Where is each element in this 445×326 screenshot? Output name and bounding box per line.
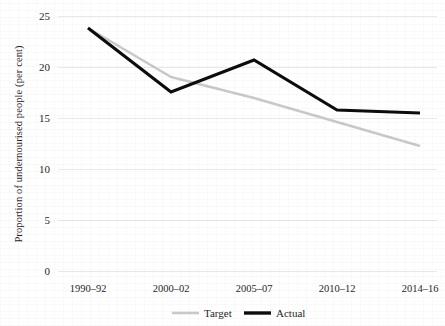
legend-label-target: Target xyxy=(204,307,232,319)
y-tick-label-20: 20 xyxy=(39,61,51,73)
legend-label-actual: Actual xyxy=(276,307,305,319)
y-tick-label-10: 10 xyxy=(39,163,51,175)
line-chart-canvas: 25 20 15 10 5 0 Proportion of undernouri… xyxy=(0,0,445,326)
y-axis-title: Proportion of undernourised people (per … xyxy=(13,45,25,243)
x-tick-label-2000-02: 2000–02 xyxy=(153,283,190,294)
x-tick-label-2014-16: 2014–16 xyxy=(402,283,439,294)
x-tick-label-1990-92: 1990–92 xyxy=(70,283,107,294)
x-tick-label-2005-07: 2005–07 xyxy=(236,283,273,294)
x-tick-label-2010-12: 2010–12 xyxy=(319,283,356,294)
y-tick-label-5: 5 xyxy=(45,214,51,226)
y-tick-label-15: 15 xyxy=(39,112,51,124)
chart-background xyxy=(0,0,445,326)
y-tick-label-0: 0 xyxy=(45,265,51,277)
y-tick-label-25: 25 xyxy=(39,10,51,22)
chart-figure: 25 20 15 10 5 0 Proportion of undernouri… xyxy=(0,0,445,326)
